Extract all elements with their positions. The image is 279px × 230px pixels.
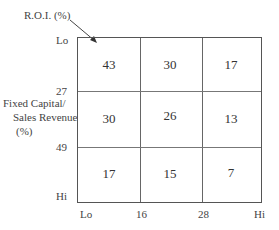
title-label: R.O.I. (%) — [24, 9, 70, 21]
column-divider — [202, 38, 203, 202]
row-divider — [78, 91, 261, 92]
matrix-cell: 7 — [211, 165, 251, 181]
y-tick-27: 27 — [56, 85, 67, 97]
matrix-cell: 15 — [150, 166, 190, 182]
matrix-cell: 13 — [211, 111, 251, 127]
matrix-cell: 17 — [211, 57, 251, 73]
matrix-cell: 30 — [150, 57, 190, 73]
matrix-cell: 17 — [89, 166, 129, 182]
roi-matrix: 43 30 17 30 26 13 17 15 7 — [77, 37, 262, 203]
matrix-cell: 43 — [89, 57, 129, 73]
y-axis-label-line2: Sales Revenue — [13, 111, 77, 123]
y-tick-49: 49 — [56, 141, 67, 153]
column-divider — [140, 38, 141, 202]
x-tick-16: 16 — [136, 208, 147, 220]
matrix-cell: 30 — [89, 111, 129, 127]
matrix-cell: 26 — [150, 108, 190, 124]
y-tick-lo: Lo — [56, 34, 68, 46]
y-axis-label-line1: Fixed Capital/ — [3, 97, 66, 109]
x-tick-hi: Hi — [254, 208, 265, 220]
x-tick-lo: Lo — [80, 208, 92, 220]
y-tick-hi: Hi — [56, 190, 67, 202]
x-tick-28: 28 — [198, 208, 209, 220]
y-axis-label-line3: (%) — [16, 125, 33, 137]
row-divider — [78, 147, 261, 148]
